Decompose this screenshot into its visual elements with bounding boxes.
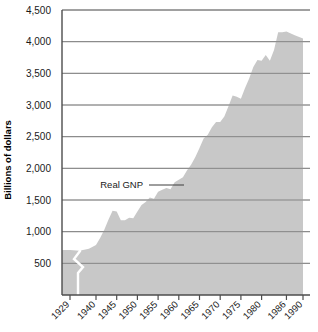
- y-axis-tick-label: 3,500: [26, 68, 51, 79]
- y-axis-tick-label: 4,500: [26, 5, 51, 16]
- y-axis-tick-label: 3,000: [26, 100, 51, 111]
- y-axis-title-text: Billions of dollars: [2, 120, 13, 200]
- y-axis-tick-label: 500: [34, 258, 51, 269]
- y-axis-tick-labels: 5001,0001,5002,0002,5003,0003,5004,0004,…: [26, 5, 51, 269]
- y-axis-tick-label: 1,000: [26, 226, 51, 237]
- y-axis-tick-label: 2,500: [26, 131, 51, 142]
- y-axis-title: Billions of dollars: [2, 120, 13, 200]
- y-axis-tick-label: 1,500: [26, 195, 51, 206]
- y-axis-tick-label: 4,000: [26, 36, 51, 47]
- y-axis-tick-label: 2,000: [26, 163, 51, 174]
- chart-canvas: 5001,0001,5002,0002,5003,0003,5004,0004,…: [0, 0, 318, 332]
- real-gnp-area-chart: 5001,0001,5002,0002,5003,0003,5004,0004,…: [0, 0, 318, 332]
- real-gnp-annotation-text: Real GNP: [100, 179, 143, 190]
